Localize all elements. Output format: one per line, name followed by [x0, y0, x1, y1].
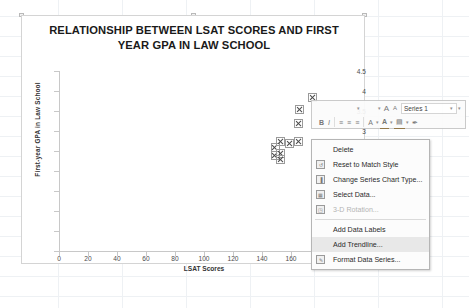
- context-menu[interactable]: Delete↺Reset to Match Style▐Change Serie…: [311, 139, 430, 270]
- scatter-point[interactable]: [296, 106, 303, 113]
- bold-button[interactable]: B: [317, 116, 326, 129]
- y-tick-label: 4: [336, 88, 366, 95]
- context-menu-item[interactable]: ▐Change Series Chart Type...: [312, 172, 429, 187]
- font-color-letter-icon[interactable]: A: [366, 116, 375, 129]
- context-menu-item[interactable]: ↺Reset to Match Style: [312, 157, 429, 172]
- context-menu-item-label: Delete: [333, 146, 354, 154]
- format-painter-icon[interactable]: ✒: [410, 116, 420, 129]
- y-tick: [54, 191, 59, 192]
- italic-button[interactable]: I: [326, 116, 332, 129]
- x-tick-label: 80: [163, 255, 187, 262]
- series-selector-label: Series 1: [404, 105, 428, 112]
- x-tick-label: 140: [250, 255, 274, 262]
- y-tick: [54, 231, 59, 232]
- context-menu-item: ◳3-D Rotation...: [312, 202, 429, 217]
- mini-formatting-toolbar[interactable]: ▾ ▾ A A Series 1 ▾ ▾ B I ≡ ≡ ≡ A ▾ A ▾ ▤…: [311, 100, 466, 129]
- x-tick-label: 160: [279, 255, 303, 262]
- series-selector-caret-icon: ▾: [449, 105, 454, 111]
- context-menu-item[interactable]: Delete: [312, 142, 429, 157]
- highlight-color-button[interactable]: A: [380, 115, 389, 129]
- menu-item-icon-placeholder: [316, 145, 325, 154]
- context-menu-separator: [315, 219, 426, 220]
- scatter-point[interactable]: [295, 120, 302, 127]
- x-tick-label: 0: [47, 255, 71, 262]
- context-menu-item[interactable]: ▦Select Data...: [312, 187, 429, 202]
- fill-color-button[interactable]: ▤: [394, 115, 405, 129]
- font-name-caret-icon[interactable]: ▾: [356, 105, 361, 111]
- context-menu-item-label: Format Data Series...: [333, 256, 400, 264]
- context-menu-item-label: 3-D Rotation...: [333, 206, 379, 214]
- y-tick: [54, 131, 59, 132]
- mini-toolbar-row-1: ▾ ▾ A A Series 1 ▾ ▾: [312, 101, 465, 115]
- x-tick-label: 120: [221, 255, 245, 262]
- y-tick-label: 4.5: [336, 68, 366, 75]
- menu-item-icon: ◳: [316, 205, 325, 214]
- menu-item-icon-placeholder: [316, 240, 325, 249]
- scatter-point[interactable]: [277, 156, 284, 163]
- context-menu-item-label: Select Data...: [333, 191, 376, 199]
- align-right-button[interactable]: ≡: [353, 116, 361, 129]
- x-tick-label: 100: [192, 255, 216, 262]
- context-menu-item-label: Change Series Chart Type...: [333, 176, 422, 184]
- y-tick: [54, 91, 59, 92]
- x-tick-label: 60: [134, 255, 158, 262]
- y-tick: [54, 151, 59, 152]
- toolbar-separator: [363, 117, 364, 127]
- align-center-button[interactable]: ≡: [345, 116, 353, 129]
- menu-item-icon: ↺: [316, 160, 325, 169]
- x-tick-label: 20: [76, 255, 100, 262]
- menu-item-icon: ✎: [316, 255, 325, 264]
- toolbar-overflow-caret-icon[interactable]: ▾: [457, 105, 462, 111]
- shrink-font-icon[interactable]: A: [391, 102, 399, 115]
- align-left-button[interactable]: ≡: [337, 116, 345, 129]
- scatter-point[interactable]: [286, 140, 293, 147]
- context-menu-item[interactable]: ✎Format Data Series...: [312, 252, 429, 267]
- y-tick: [54, 211, 59, 212]
- context-menu-item[interactable]: Add Data Labels: [312, 222, 429, 237]
- context-menu-item[interactable]: Add Trendline...: [312, 237, 429, 252]
- menu-item-icon: ▐: [316, 175, 325, 184]
- series-selector-dropdown[interactable]: Series 1 ▾: [401, 103, 457, 114]
- y-axis-line: [59, 71, 60, 251]
- grow-font-icon[interactable]: A: [382, 102, 391, 115]
- toolbar-separator: [334, 117, 335, 127]
- y-tick: [54, 71, 59, 72]
- context-menu-item-label: Reset to Match Style: [333, 161, 398, 169]
- context-menu-item-label: Add Data Labels: [333, 226, 385, 234]
- context-menu-item-label: Add Trendline...: [333, 241, 383, 249]
- x-tick-label: 40: [105, 255, 129, 262]
- scatter-point[interactable]: [277, 138, 284, 145]
- y-tick: [54, 171, 59, 172]
- scatter-point[interactable]: [295, 138, 302, 145]
- y-axis-title[interactable]: First-year GPA in Law School: [34, 82, 41, 178]
- menu-item-icon-placeholder: [316, 225, 325, 234]
- menu-item-icon: ▦: [316, 190, 325, 199]
- x-axis-title[interactable]: LSAT Scores: [59, 265, 349, 272]
- y-tick: [54, 111, 59, 112]
- mini-toolbar-row-2: B I ≡ ≡ ≡ A ▾ A ▾ ▤ ▾ ✒: [312, 115, 465, 129]
